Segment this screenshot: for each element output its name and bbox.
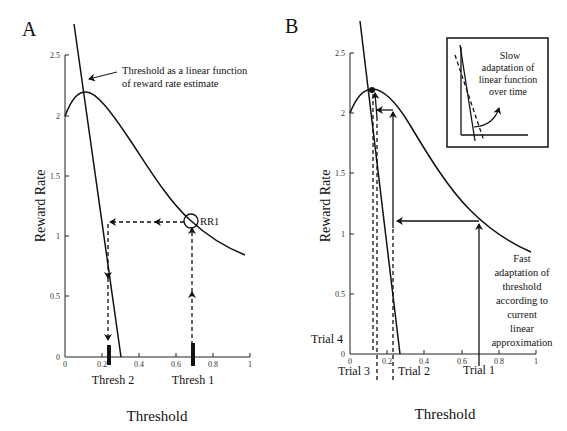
panel-a-label: A (22, 18, 37, 40)
svg-text:0.2: 0.2 (382, 357, 392, 366)
panel-b: B 0 0.5 1 1.5 2 2.5 0 0.2 0.4 0.6 0.8 1 (285, 15, 553, 422)
svg-text:0.2: 0.2 (97, 360, 107, 369)
svg-text:linear function: linear function (479, 74, 538, 85)
svg-text:1.5: 1.5 (335, 169, 345, 178)
x-axis-label: Threshold (127, 408, 188, 424)
svg-text:2.5: 2.5 (335, 49, 345, 58)
svg-text:0.5: 0.5 (50, 292, 60, 301)
svg-text:threshold: threshold (502, 281, 542, 292)
fast-adaptation-note: Fast adaptation of threshold according t… (491, 253, 553, 348)
svg-text:over time: over time (489, 86, 528, 97)
svg-text:Fast: Fast (513, 253, 531, 264)
y-tick-labels: 0 0.5 1 1.5 2 2.5 (50, 51, 60, 362)
svg-text:0.6: 0.6 (171, 360, 181, 369)
svg-text:0.4: 0.4 (134, 360, 144, 369)
linear-threshold-line (360, 21, 400, 354)
y-axis-label: Reward Rate (33, 170, 48, 243)
svg-text:according to: according to (496, 295, 548, 306)
svg-text:adaptation of: adaptation of (482, 62, 535, 73)
svg-text:adaptation of: adaptation of (494, 267, 550, 278)
svg-text:0: 0 (341, 350, 345, 359)
x-tick-labels: 0 0.2 0.4 0.6 0.8 1 (63, 360, 252, 369)
linear-threshold-line (74, 24, 121, 357)
svg-text:1.5: 1.5 (50, 172, 60, 181)
trial1-label: Trial 1 (463, 363, 495, 377)
svg-text:2: 2 (341, 109, 345, 118)
svg-text:2: 2 (56, 112, 60, 121)
svg-text:0: 0 (56, 353, 60, 362)
svg-text:Slow: Slow (500, 50, 521, 61)
svg-text:0.5: 0.5 (335, 290, 345, 299)
svg-text:0: 0 (63, 360, 67, 369)
svg-text:1: 1 (56, 232, 60, 241)
svg-text:linear: linear (510, 323, 534, 334)
inset-box: Slow adaptation of linear function over … (447, 38, 548, 147)
y-tick-labels: 0 0.5 1 1.5 2 2.5 (335, 49, 345, 359)
panel-b-label: B (285, 15, 298, 37)
thresh2-label: Thresh 2 (92, 373, 134, 387)
y-axis-label: Reward Rate (318, 170, 333, 243)
annotation-line1: Threshold as a linear function (122, 65, 248, 76)
figure: A 0 0.5 1 1.5 2 2.5 0 0.2 0.4 0.6 0.8 1 (0, 0, 567, 431)
thresh1-bar (191, 343, 195, 366)
trial3-label: Trial 3 (338, 364, 370, 378)
trial4-label: Trial 4 (311, 332, 343, 346)
svg-text:0.8: 0.8 (208, 360, 218, 369)
thresh2-bar (107, 345, 111, 365)
reward-rate-curve (65, 92, 245, 255)
panel-a: A 0 0.5 1 1.5 2 2.5 0 0.2 0.4 0.6 0.8 1 (22, 18, 252, 424)
annotation-line2: of reward rate estimate (122, 78, 219, 89)
svg-text:approximation: approximation (491, 337, 553, 348)
svg-text:1: 1 (248, 360, 252, 369)
thresh1-label: Thresh 1 (172, 373, 214, 387)
svg-text:current: current (507, 309, 537, 320)
equilibrium-point (369, 87, 375, 93)
rr1-label: RR1 (200, 216, 219, 227)
svg-text:2.5: 2.5 (50, 51, 60, 60)
trial2-label: Trial 2 (398, 364, 430, 378)
x-axis-label: Threshold (415, 406, 476, 422)
annotation-arrow (89, 72, 117, 79)
svg-text:1: 1 (341, 230, 345, 239)
svg-text:0.8: 0.8 (494, 357, 504, 366)
svg-text:1: 1 (534, 357, 538, 366)
